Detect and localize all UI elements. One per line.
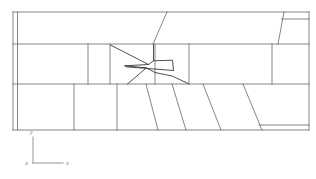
triad-z-label: z (25, 159, 29, 166)
coordinate-triad: y x z (25, 128, 70, 166)
upper-band-blocks (153, 12, 309, 44)
lower-band-slant-2 (172, 84, 186, 130)
figure-root: y x z (0, 0, 316, 179)
triad-y-label: y (29, 128, 33, 135)
lower-band-slant-4 (243, 84, 262, 130)
mesh-topology-figure: y x z (0, 0, 316, 179)
body-upper-diagonal (111, 45, 149, 65)
lower-band-blocks (74, 84, 309, 130)
lower-band-slant-3 (203, 84, 221, 130)
upper-band-slant-edge (153, 12, 167, 44)
triad-x-label: x (65, 159, 69, 166)
aircraft-section (111, 45, 190, 85)
band-separators (13, 44, 309, 84)
domain-outline (13, 12, 309, 130)
middle-band-blocks (88, 44, 272, 84)
upper-band-right-slant (278, 12, 284, 44)
body-lower-left-diagonal (128, 68, 147, 84)
lower-band-slant-1 (146, 84, 158, 130)
